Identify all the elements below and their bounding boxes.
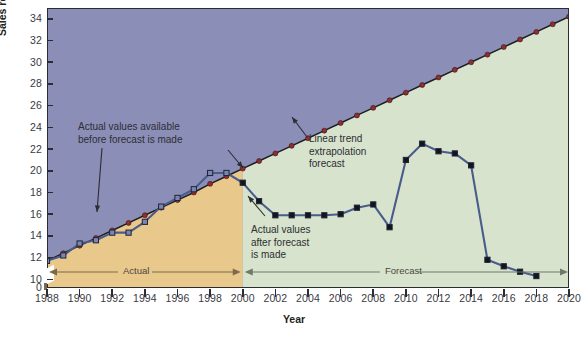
actual-point-after: [403, 157, 408, 162]
actual-point-after: [371, 202, 376, 207]
y-tick-label: 14: [14, 229, 42, 241]
y-tick: [47, 148, 53, 150]
actual-point-after: [387, 225, 392, 230]
actual-point-before: [77, 241, 82, 246]
y-tick-label: 24: [14, 121, 42, 133]
actual-point-after: [469, 163, 474, 168]
trend-point: [289, 143, 294, 148]
y-tick-label: 12: [14, 251, 42, 263]
y-tick: [47, 61, 53, 63]
y-tick: [47, 279, 53, 281]
actual-point-before: [126, 230, 131, 235]
actual-point-after: [501, 264, 506, 269]
y-tick: [47, 40, 53, 42]
y-tick-label: 34: [14, 12, 42, 24]
y-tick: [47, 83, 53, 85]
actual-point-after: [240, 180, 245, 185]
trend-point: [469, 60, 474, 65]
annotation-arrow-trend-head: [292, 117, 298, 124]
actual-point-after: [338, 212, 343, 217]
y-tick-label: 16: [14, 208, 42, 220]
y-tick-label: 30: [14, 56, 42, 68]
trend-point: [501, 45, 506, 50]
annotation-actual-before: Actual values available before forecast …: [78, 121, 213, 146]
annotation-trend-line2: extrapolation: [309, 146, 399, 159]
actual-point-after: [485, 257, 490, 262]
actual-point-after: [452, 151, 457, 156]
annotation-actual-after: Actual values after forecast is made: [251, 224, 343, 262]
actual-point-before: [208, 170, 213, 175]
annotation-trend: Linear trend extrapolation forecast: [309, 133, 399, 171]
annotation-actual-before-line2: before forecast is made: [78, 134, 213, 147]
actual-point-before: [224, 170, 229, 175]
trend-point: [354, 113, 359, 118]
actual-point-after: [436, 149, 441, 154]
trend-point: [257, 159, 262, 164]
actual-point-before: [142, 219, 147, 224]
actual-point-after: [420, 141, 425, 146]
x-tick-label: 2020: [549, 292, 588, 304]
actual-point-after: [517, 269, 522, 274]
y-tick: [47, 170, 53, 172]
annotation-trend-line3: forecast: [309, 158, 399, 171]
annotation-trend-line1: Linear trend: [309, 133, 399, 146]
trend-point: [420, 83, 425, 88]
x-axis-title: Year: [0, 313, 588, 325]
y-tick: [47, 213, 53, 215]
actual-point-after: [322, 213, 327, 218]
actual-point-before: [159, 204, 164, 209]
trend-point: [534, 29, 539, 34]
annotation-arrow-actual-before: [97, 148, 102, 212]
y-tick-label: 32: [14, 34, 42, 46]
actual-point-before: [110, 230, 115, 235]
actual-point-after: [256, 199, 261, 204]
trend-point: [387, 98, 392, 103]
trend-point: [518, 37, 523, 42]
actual-point-after: [354, 205, 359, 210]
trend-point: [142, 213, 147, 218]
trend-point: [338, 121, 343, 126]
annotation-actual-after-line3: is made: [251, 249, 343, 262]
y-tick: [47, 192, 53, 194]
actual-point-after: [534, 273, 539, 278]
actual-point-before: [175, 195, 180, 200]
annotation-actual-before-line1: Actual values available: [78, 121, 213, 134]
trend-point: [452, 67, 457, 72]
y-tick-label: 22: [14, 143, 42, 155]
trend-point: [550, 22, 555, 27]
y-tick-label: 28: [14, 77, 42, 89]
trend-point: [436, 75, 441, 80]
actual-point-after: [289, 213, 294, 218]
actual-point-before: [191, 187, 196, 192]
trend-point: [403, 90, 408, 95]
trend-point: [273, 151, 278, 156]
chart-figure: Sales revenue ($ billions) Year Actual v…: [0, 0, 588, 337]
annotation-actual-after-line2: after forecast: [251, 237, 343, 250]
region-label-forecast: Forecast: [382, 265, 425, 276]
y-tick-label: 20: [14, 164, 42, 176]
trend-point: [567, 14, 570, 19]
y-tick-label: 26: [14, 99, 42, 111]
actual-point-after: [305, 213, 310, 218]
trend-point: [208, 181, 213, 186]
y-tick-label: 18: [14, 186, 42, 198]
actual-point-before: [93, 238, 98, 243]
y-tick: [47, 257, 53, 259]
annotation-actual-after-line1: Actual values: [251, 224, 343, 237]
trend-point: [371, 105, 376, 110]
actual-point-after: [273, 213, 278, 218]
region-label-actual: Actual: [120, 265, 152, 276]
y-tick: [47, 105, 53, 107]
y-tick: [47, 127, 53, 129]
y-tick: [47, 18, 53, 20]
actual-point-before: [47, 258, 50, 263]
y-axis-title: Sales revenue ($ billions): [0, 0, 8, 58]
y-tick: [47, 235, 53, 237]
trend-point: [126, 220, 131, 225]
actual-point-before: [61, 253, 66, 258]
trend-point: [485, 52, 490, 57]
